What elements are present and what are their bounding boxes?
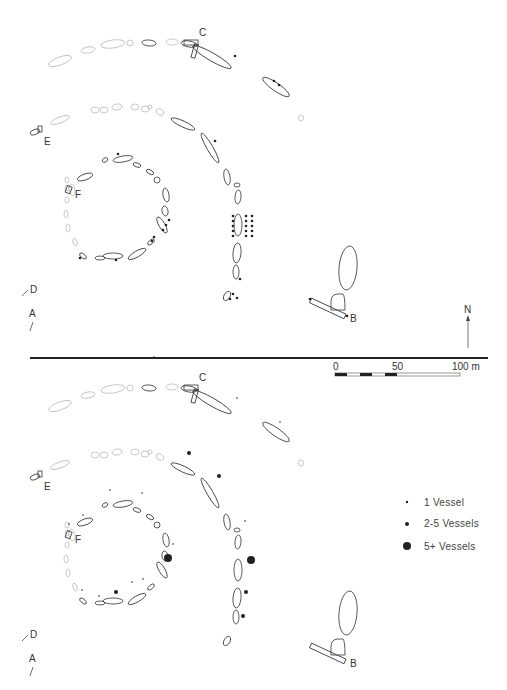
- middle-ring-stone: [131, 104, 139, 110]
- vessel-dot: [232, 293, 235, 296]
- middle-ring-stone: [91, 452, 99, 458]
- outer-ring-stone: [142, 384, 156, 391]
- outer-ring-stone: [101, 38, 126, 49]
- middle-ring-stone: [112, 448, 123, 456]
- vessel-dot: [278, 84, 281, 87]
- vessel-dot: [217, 474, 221, 478]
- vessel-dot: [229, 298, 232, 301]
- vessel-dot: [251, 215, 254, 218]
- inner-ring-stone: [162, 533, 170, 548]
- north-label: N: [464, 304, 471, 315]
- vessel-dot: [131, 581, 133, 583]
- legend-label: 2-5 Vessels: [424, 518, 479, 529]
- label-a: A: [29, 308, 36, 319]
- vessel-dot: [151, 240, 154, 243]
- vessel-dot: [117, 153, 120, 156]
- vessel-dot: [141, 492, 143, 494]
- inner-ring-stone: [101, 157, 108, 163]
- inner-ring-stone: [64, 555, 68, 563]
- label-b: B: [350, 313, 357, 324]
- inner-ring-stone: [76, 516, 93, 527]
- legend-symbol-2-5-vessels: [405, 522, 409, 526]
- vessel-dot: [245, 235, 248, 238]
- inner-ring-stone: [64, 210, 68, 218]
- middle-ring-stone: [170, 461, 196, 477]
- scale-tick-100: 100 m: [452, 361, 480, 372]
- label-c: C: [199, 372, 206, 383]
- inner-ring-stone: [72, 583, 78, 592]
- middle-ring-stone: [100, 107, 108, 113]
- outer-ring-stone: [191, 43, 233, 72]
- vessel-dot: [142, 578, 144, 580]
- inner-ring-stone: [65, 522, 69, 528]
- middle-ring-stone: [223, 169, 232, 186]
- large-stone: [337, 245, 359, 290]
- scale-bar-frame: [335, 373, 460, 376]
- inner-ring-stone: [146, 168, 155, 175]
- inner-ring-stone: [147, 238, 156, 246]
- vessel-dot: [251, 225, 254, 228]
- middle-ring-stone: [50, 459, 71, 471]
- vessel-dot: [165, 224, 168, 227]
- vessel-dot: [232, 230, 235, 233]
- legend-symbol-1-vessel: [406, 501, 408, 503]
- inner-ring-stone: [76, 171, 93, 182]
- scale-seg: [385, 373, 397, 376]
- vessel-dot: [115, 259, 118, 262]
- vessel-dot: [164, 554, 172, 562]
- outer-ring-stone: [81, 46, 96, 54]
- label-a: A: [29, 653, 36, 664]
- east-row-stone: [234, 528, 240, 532]
- label-b: B: [350, 658, 357, 669]
- vessel-dot: [251, 230, 254, 233]
- inner-ring-stone: [154, 522, 160, 528]
- vessel-dot: [247, 556, 255, 564]
- upper-panel: CEFDAB: [22, 27, 359, 331]
- vessel-dot: [239, 278, 242, 281]
- outer-ring-stone: [47, 53, 72, 69]
- outer-ring-stone: [101, 383, 126, 394]
- arrow-a-icon: [30, 667, 33, 676]
- label-d: D: [30, 629, 37, 640]
- inner-ring-stone: [127, 591, 147, 606]
- inner-ring-stone: [155, 561, 169, 580]
- legend-symbol-5-plus-vessels: [403, 542, 411, 550]
- vessel-dot: [236, 297, 239, 300]
- legend: 1 Vessel 2-5 Vessels 5+ Vessels: [403, 497, 479, 552]
- inner-ring-stone: [103, 253, 123, 259]
- block-stone: [331, 294, 345, 310]
- outer-ring-stone: [261, 75, 292, 100]
- label-e: E: [44, 481, 51, 492]
- outer-ring-stone: [47, 398, 72, 414]
- inner-ring-stone: [127, 246, 147, 261]
- middle-ring-stone: [131, 449, 139, 455]
- inner-ring-stone: [65, 197, 69, 203]
- vessel-dot: [98, 595, 100, 597]
- east-row-stone: [234, 535, 241, 549]
- east-row-stone: [234, 214, 242, 236]
- vessel-dot: [82, 514, 84, 516]
- outer-ring-stone: [299, 115, 304, 121]
- label-e: E: [44, 136, 51, 147]
- outer-ring-stone: [127, 40, 133, 46]
- middle-ring-stone: [223, 514, 232, 531]
- middle-ring-stone: [199, 132, 221, 164]
- label-c: C: [199, 27, 206, 38]
- east-row-stone: [234, 559, 242, 581]
- vessel-dot: [251, 220, 254, 223]
- vessel-dot: [273, 80, 276, 83]
- inner-ring-stone: [161, 206, 169, 217]
- vessel-dot: [245, 220, 248, 223]
- inner-ring-stone: [133, 507, 142, 513]
- scale-tick-50: 50: [392, 361, 404, 372]
- inner-ring-stone: [103, 598, 123, 604]
- middle-ring-stone: [155, 107, 165, 116]
- east-row-stone: [232, 243, 242, 264]
- outer-ring-stone: [166, 39, 178, 45]
- label-d: D: [30, 284, 37, 295]
- inner-ring-stone: [66, 569, 70, 577]
- east-row-stone: [234, 190, 241, 204]
- inner-ring-stone: [146, 513, 155, 520]
- vessel-dot: [241, 614, 245, 618]
- east-row-stone: [233, 265, 239, 279]
